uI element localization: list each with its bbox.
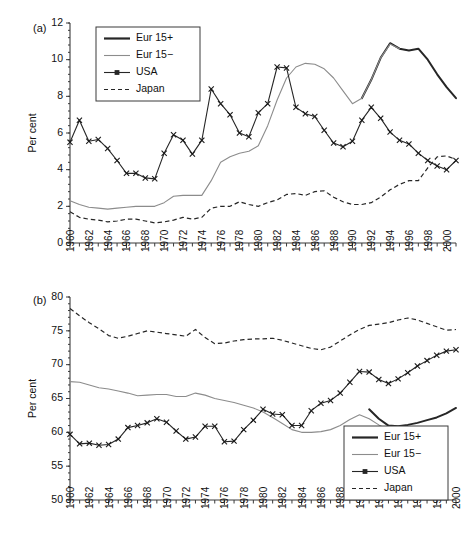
x-tick-label: 2000 — [442, 229, 453, 252]
y-axis-title: Per cent — [26, 113, 38, 152]
x-tick-label: 1980 — [258, 486, 269, 509]
x-tick-label: 1960 — [65, 486, 76, 509]
series-line-japan — [70, 309, 456, 350]
x-tick-label: 1972 — [181, 486, 192, 509]
x-tick-label: 1972 — [178, 229, 189, 252]
x-tick-label: 1974 — [200, 486, 211, 509]
x-tick-label: 1966 — [123, 486, 134, 509]
legend: Eur 15+Eur 15−USAJapan — [96, 27, 200, 101]
y-tick-label: 80 — [51, 290, 63, 302]
series-line-eur15plus — [362, 43, 456, 98]
legend-label: Japan — [136, 82, 165, 94]
x-tick-label: 1984 — [291, 229, 302, 252]
legend: Eur 15+Eur 15−USAJapan — [344, 426, 448, 500]
panel-b: (b) 505560657075801960196219641966196819… — [0, 280, 471, 551]
x-tick-label: 1982 — [272, 229, 283, 252]
x-tick-label: 1976 — [219, 486, 230, 509]
series-line-eur15plus — [369, 408, 456, 426]
y-tick-label: 60 — [51, 425, 63, 437]
legend-label: Eur 15− — [136, 48, 173, 60]
y-tick-label: 55 — [51, 459, 63, 471]
legend-swatch-usa-marker — [115, 70, 120, 75]
series-line-eur15minus — [70, 382, 408, 433]
y-tick-label: 65 — [51, 391, 63, 403]
y-tick-label: 70 — [51, 357, 63, 369]
y-tick-label: 8 — [57, 89, 63, 101]
y-tick-label: 50 — [51, 493, 63, 505]
y-tick-label: 12 — [51, 16, 63, 28]
x-tick-label: 1964 — [103, 229, 114, 252]
y-tick-label: 2 — [57, 199, 63, 211]
x-tick-label: 1992 — [366, 229, 377, 252]
x-tick-label: 1978 — [239, 486, 250, 509]
x-tick-label: 1962 — [84, 486, 95, 509]
x-tick-label: 1976 — [216, 229, 227, 252]
x-tick-label: 1970 — [162, 486, 173, 509]
x-tick-label: 1962 — [84, 229, 95, 252]
panel-a-plot: 0246810121960196219641966196819701972197… — [0, 0, 471, 280]
y-tick-label: 4 — [57, 162, 63, 174]
x-tick-label: 1988 — [329, 229, 340, 252]
y-tick-label: 0 — [57, 236, 63, 248]
x-tick-label: 1968 — [140, 229, 151, 252]
x-tick-label: 1984 — [297, 486, 308, 509]
y-tick-label: 10 — [51, 52, 63, 64]
legend-label: USA — [384, 464, 406, 476]
x-tick-label: 1986 — [316, 486, 327, 509]
y-tick-label: 75 — [51, 324, 63, 336]
x-tick-label: 1986 — [310, 229, 321, 252]
x-tick-label: 1960 — [65, 229, 76, 252]
x-tick-label: 1982 — [277, 486, 288, 509]
y-tick-label: 6 — [57, 126, 63, 138]
figure-two-panel-line-charts: (a) 024681012196019621964196619681970197… — [0, 0, 471, 551]
x-tick-label: 1964 — [104, 486, 115, 509]
panel-a: (a) 024681012196019621964196619681970197… — [0, 0, 471, 280]
x-tick-label: 2000 — [451, 486, 462, 509]
series-line-japan — [70, 156, 456, 223]
x-tick-label: 1998 — [423, 229, 434, 252]
x-tick-label: 1996 — [404, 229, 415, 252]
x-tick-label: 1978 — [234, 229, 245, 252]
legend-label: Japan — [384, 481, 413, 493]
x-tick-label: 1966 — [121, 229, 132, 252]
x-tick-label: 1990 — [347, 229, 358, 252]
panel-b-plot: 5055606570758019601962196419661968197019… — [0, 280, 471, 551]
legend-label: Eur 15+ — [136, 31, 173, 43]
legend-label: USA — [136, 65, 158, 77]
legend-label: Eur 15− — [384, 447, 421, 459]
x-tick-label: 1994 — [385, 229, 396, 252]
y-axis-title: Per cent — [26, 379, 38, 418]
x-tick-label: 1968 — [142, 486, 153, 509]
x-tick-label: 1980 — [253, 229, 264, 252]
legend-swatch-usa-marker — [363, 469, 368, 474]
x-tick-label: 1974 — [197, 229, 208, 252]
legend-label: Eur 15+ — [384, 430, 421, 442]
x-tick-label: 1970 — [159, 229, 170, 252]
